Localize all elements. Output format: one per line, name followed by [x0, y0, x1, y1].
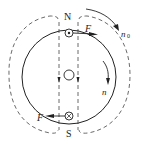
- axle-circle: [64, 70, 74, 80]
- label-n0-sub: 0: [127, 33, 130, 39]
- arrow-down-icon: [77, 77, 80, 83]
- label-north: N: [64, 11, 71, 22]
- arrow-left-icon: [45, 114, 54, 118]
- motor-diagram: N S F F n 0 n: [0, 0, 143, 150]
- label-n0: n: [121, 29, 126, 39]
- label-south: S: [66, 128, 72, 139]
- current-out-dot: [68, 32, 70, 34]
- rotation-arrow-n: [103, 61, 108, 80]
- coil-circle: [22, 30, 116, 124]
- label-force-top: F: [84, 23, 92, 34]
- arrow-down-icon: [106, 78, 110, 85]
- label-force-bottom: F: [36, 112, 44, 123]
- arrow-down-icon: [58, 77, 61, 83]
- label-n: n: [102, 87, 107, 97]
- arrow-icon: [113, 24, 119, 31]
